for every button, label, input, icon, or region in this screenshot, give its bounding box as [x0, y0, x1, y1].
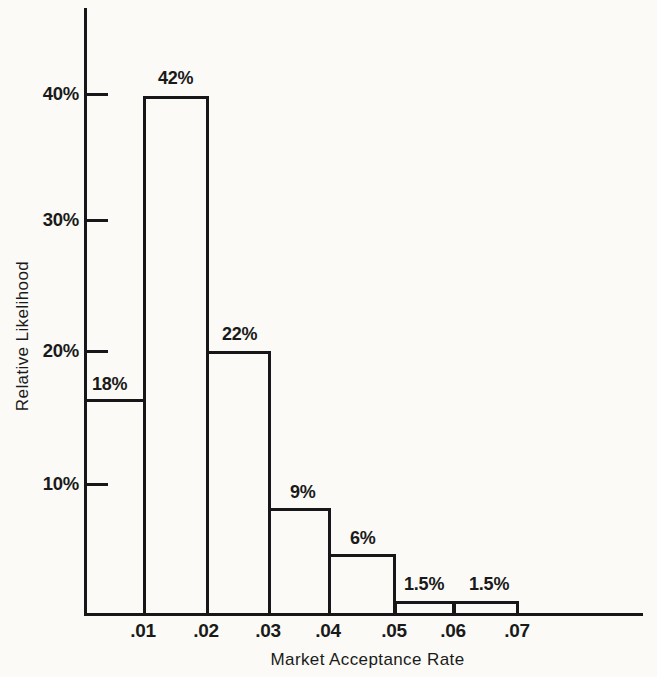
x-tick-label-07: .07: [487, 621, 547, 640]
bar-label-0: 18%: [92, 375, 127, 393]
x-tick-label-05: .05: [364, 621, 424, 640]
bar-0: [84, 399, 146, 616]
y-axis-title-text: Relative Likelihood: [13, 261, 33, 411]
y-tick-20: [87, 350, 108, 353]
bar-4: [328, 554, 396, 616]
bar-6: [453, 601, 519, 616]
y-tick-label-30: 30%: [19, 211, 79, 230]
bar-label-1: 42%: [158, 69, 193, 87]
y-axis-title: Relative Likelihood: [10, 236, 36, 436]
bar-3: [268, 508, 331, 616]
bar-1: [143, 96, 209, 616]
bar-label-5: 1.5%: [404, 575, 444, 593]
y-tick-label-10: 10%: [19, 475, 79, 494]
y-tick-40: [87, 93, 108, 96]
bar-label-2: 22%: [222, 325, 257, 343]
y-tick-label-40: 40%: [19, 85, 79, 104]
x-tick-label-06: .06: [423, 621, 483, 640]
bar-label-4: 6%: [350, 529, 376, 547]
bar-5: [394, 601, 455, 616]
bar-label-3: 9%: [290, 483, 316, 501]
x-tick-label-04: .04: [298, 621, 358, 640]
bar-2: [206, 351, 271, 616]
x-tick-label-01: .01: [113, 621, 173, 640]
histogram-figure: 40% 30% 20% 10% 18% 42% 22% 9% 6% 1.5% 1…: [0, 0, 657, 677]
y-tick-30: [87, 219, 108, 222]
x-tick-label-02: .02: [176, 621, 236, 640]
bar-label-6: 1.5%: [469, 575, 509, 593]
x-tick-label-03: .03: [238, 621, 298, 640]
x-axis-title: Market Acceptance Rate: [0, 651, 657, 668]
